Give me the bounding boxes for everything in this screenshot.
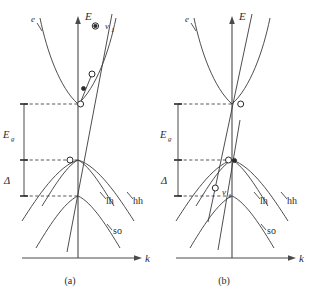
momentum-axis-a xyxy=(22,255,142,261)
energy-axis-label-b: E xyxy=(238,10,246,22)
transition-v1-sub-a: 1 xyxy=(111,26,115,34)
energy-axis-arrow-b xyxy=(229,16,235,24)
transition-marker-mid-a xyxy=(82,87,86,91)
panel-caption-a: (a) xyxy=(64,275,75,287)
band-gap-label-text-a: E xyxy=(2,129,10,140)
transition-marker-conduction-b xyxy=(238,101,244,107)
band-gap-label-text-b: E xyxy=(160,129,167,140)
momentum-axis-arrow-a xyxy=(134,255,142,261)
split-off-delta-label-b: Δ xyxy=(160,175,167,186)
transition-line-secondary-b xyxy=(218,120,240,250)
split-off-label-b: so xyxy=(267,225,276,236)
transition-marker-conduction-a xyxy=(78,101,84,107)
transition-v1-text-a: v xyxy=(105,21,109,31)
energy-axis-b xyxy=(229,16,235,258)
split-off-label-a: so xyxy=(113,225,122,236)
transition-v1-sub-b: 1 xyxy=(228,192,232,200)
figure-root: E k e E g xyxy=(0,0,321,295)
momentum-axis-label-b: k xyxy=(299,252,305,264)
momentum-axis-label-a: k xyxy=(145,252,151,264)
band-diagram-panel-a: E k e E g xyxy=(0,0,161,295)
energy-axis-label-a: E xyxy=(84,10,92,22)
transition-marker-splitoff-b xyxy=(212,185,218,191)
split-off-delta-label-a: Δ xyxy=(3,175,10,186)
panel-caption-b: (b) xyxy=(218,275,230,287)
heavy-hole-label-b: hh xyxy=(287,195,297,206)
conduction-band-label-b: e xyxy=(185,14,189,24)
band-diagram-panel-b: E k e E g xyxy=(160,0,321,295)
transition-line-a xyxy=(67,14,112,252)
heavy-hole-label-a: hh xyxy=(133,195,143,206)
light-hole-label-a: lh xyxy=(106,195,114,206)
transition-marker-valence-dot-b xyxy=(232,158,236,162)
band-gap-label-b: E g xyxy=(160,129,172,143)
transition-v1-text-b: v xyxy=(222,187,226,197)
energy-axis-a xyxy=(75,16,81,258)
band-gap-label-a: E g xyxy=(2,129,15,143)
momentum-axis-b xyxy=(176,255,296,261)
transition-marker-top-dot-a xyxy=(94,24,97,27)
band-gap-label-sub-a: g xyxy=(11,135,15,143)
transition-marker-valence-b xyxy=(226,157,232,163)
transition-marker-second-a xyxy=(89,71,95,77)
momentum-axis-arrow-b xyxy=(288,255,296,261)
conduction-band-label-a: e xyxy=(31,14,35,24)
light-hole-label-b: lh xyxy=(260,195,268,206)
energy-axis-arrow-a xyxy=(75,16,81,24)
band-gap-label-sub-b: g xyxy=(168,135,172,143)
transition-marker-valence-a xyxy=(67,157,73,163)
